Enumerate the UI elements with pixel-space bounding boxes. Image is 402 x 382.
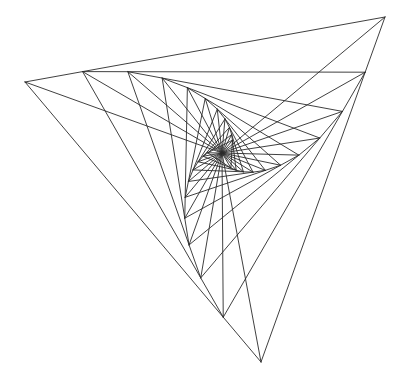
triangle-edge [162,78,189,245]
triangle-edges [25,17,385,362]
ray-line [222,153,223,317]
triangle-edge [187,88,298,155]
ray-line [222,72,365,153]
triangle-edge [83,72,224,318]
triangle-edge [25,82,261,362]
rays-to-center [25,17,385,362]
ray-line [222,153,261,362]
triangle-edge [83,72,366,73]
pursuit-triangles-diagram [0,0,402,382]
ray-line [222,153,299,155]
